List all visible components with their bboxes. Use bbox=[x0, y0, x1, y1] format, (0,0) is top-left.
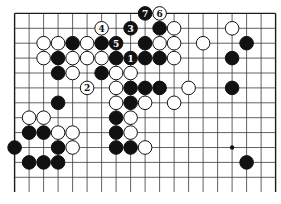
move-number-label: 3 bbox=[127, 24, 133, 34]
white-stone bbox=[167, 51, 181, 65]
black-stone bbox=[138, 36, 152, 50]
black-stone bbox=[225, 81, 239, 95]
white-stone bbox=[80, 36, 94, 50]
black-stone bbox=[51, 66, 65, 80]
white-stone bbox=[138, 141, 152, 155]
white-stone bbox=[153, 36, 167, 50]
star-points bbox=[230, 145, 234, 149]
star-point bbox=[230, 145, 234, 149]
black-stone bbox=[51, 51, 65, 65]
black-stone bbox=[66, 36, 80, 50]
black-stone bbox=[138, 51, 152, 65]
black-stone bbox=[22, 156, 36, 170]
black-stone bbox=[37, 156, 51, 170]
black-stone bbox=[225, 51, 239, 65]
black-stone: 7 bbox=[138, 7, 152, 21]
black-stone bbox=[95, 66, 109, 80]
white-stone bbox=[167, 36, 181, 50]
white-stone bbox=[80, 51, 94, 65]
move-number-label: 2 bbox=[84, 83, 90, 93]
white-stone bbox=[124, 126, 138, 140]
white-stone bbox=[51, 126, 65, 140]
black-stone: 3 bbox=[124, 22, 138, 36]
black-stone bbox=[51, 156, 65, 170]
white-stone: 6 bbox=[153, 7, 167, 21]
white-stone bbox=[37, 111, 51, 125]
move-number-label: 5 bbox=[113, 39, 119, 49]
white-stone bbox=[167, 22, 181, 36]
black-stone bbox=[22, 126, 36, 140]
black-stone bbox=[8, 141, 22, 155]
black-stone bbox=[51, 141, 65, 155]
white-stone bbox=[66, 126, 80, 140]
black-stone: 5 bbox=[109, 36, 123, 50]
white-stone bbox=[22, 111, 36, 125]
white-stone bbox=[95, 51, 109, 65]
move-number-label: 6 bbox=[156, 9, 162, 19]
black-stone bbox=[240, 156, 254, 170]
move-number-label: 7 bbox=[142, 9, 148, 19]
black-stone bbox=[37, 126, 51, 140]
black-stone bbox=[240, 36, 254, 50]
black-stone bbox=[138, 81, 152, 95]
black-stone: 1 bbox=[124, 51, 138, 65]
black-stone bbox=[124, 81, 138, 95]
black-stone bbox=[109, 141, 123, 155]
black-stone bbox=[153, 81, 167, 95]
white-stone bbox=[225, 22, 239, 36]
white-stone bbox=[66, 66, 80, 80]
white-stone bbox=[66, 141, 80, 155]
white-stone bbox=[37, 51, 51, 65]
white-stone bbox=[109, 81, 123, 95]
move-number-label: 1 bbox=[127, 54, 133, 64]
black-stone bbox=[153, 22, 167, 36]
white-stone bbox=[182, 81, 196, 95]
white-stone bbox=[138, 96, 152, 110]
white-stone bbox=[167, 96, 181, 110]
white-stone bbox=[109, 66, 123, 80]
black-stone bbox=[109, 111, 123, 125]
black-stone bbox=[95, 36, 109, 50]
white-stone bbox=[51, 36, 65, 50]
white-stone bbox=[124, 111, 138, 125]
white-stone bbox=[124, 66, 138, 80]
white-stone bbox=[37, 36, 51, 50]
go-board: 7643512 bbox=[0, 0, 281, 204]
black-stone bbox=[153, 51, 167, 65]
black-stone bbox=[124, 96, 138, 110]
white-stone: 2 bbox=[80, 81, 94, 95]
black-stone bbox=[109, 126, 123, 140]
white-stone bbox=[196, 36, 210, 50]
black-stone bbox=[109, 51, 123, 65]
white-stone bbox=[66, 51, 80, 65]
move-number-label: 4 bbox=[98, 24, 104, 34]
black-stone bbox=[124, 141, 138, 155]
white-stone bbox=[109, 96, 123, 110]
white-stone: 4 bbox=[95, 22, 109, 36]
black-stone bbox=[51, 96, 65, 110]
